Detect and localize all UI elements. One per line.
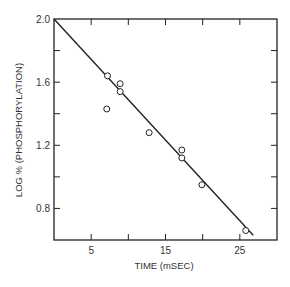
data-point-marker [117, 81, 123, 87]
tick-labels: 515250.81.21.62.0 [36, 14, 246, 256]
y-tick-label: 1.6 [36, 77, 50, 88]
y-tick-label: 0.8 [36, 203, 50, 214]
regression-line [54, 19, 253, 235]
data-point-marker [179, 147, 185, 153]
data-point-marker [243, 228, 249, 234]
data-point-marker [105, 73, 111, 79]
y-tick-label: 1.2 [36, 140, 50, 151]
plot-frame [54, 19, 277, 240]
data-point-marker [146, 130, 152, 136]
fit-line [54, 19, 253, 235]
x-tick-label: 25 [234, 245, 246, 256]
data-point-marker [117, 89, 123, 95]
data-point-marker [104, 106, 110, 112]
x-tick-label: 15 [160, 245, 172, 256]
x-axis-label: TIME (mSEC) [134, 260, 193, 271]
y-axis-label: LOG % (PHOSPHORYLATION) [13, 63, 24, 197]
chart: 515250.81.21.62.0 TIME (mSEC) LOG % (PHO… [0, 0, 290, 287]
data-point-marker [199, 182, 205, 188]
y-tick-label: 2.0 [36, 14, 50, 25]
x-tick-label: 5 [88, 245, 94, 256]
axis-ticks [54, 19, 277, 240]
data-point-marker [179, 155, 185, 161]
plot-border [54, 19, 277, 240]
